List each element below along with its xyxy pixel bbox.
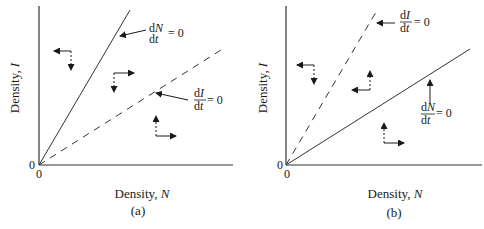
vector-arrow-left-down-icon <box>297 65 314 84</box>
panel-b: dI dt = 0 dN dt = 0 0 0 Density, N Densi… <box>255 6 482 220</box>
svg-text:= 0: = 0 <box>207 93 223 107</box>
y-axis-label: Density, I <box>7 62 22 113</box>
origin-x-tick: 0 <box>36 167 42 181</box>
pointer-arrow-icon <box>156 93 188 100</box>
label-dN-dt-zero: dN dt = 0 <box>149 21 184 46</box>
svg-text:dt: dt <box>421 113 431 127</box>
panel-caption: (b) <box>386 205 401 220</box>
label-dI-dt-zero: dI dt = 0 <box>400 8 430 35</box>
svg-text:= 0: = 0 <box>414 15 430 29</box>
vector-arrow-right-up-icon <box>384 123 404 143</box>
svg-text:= 0: = 0 <box>168 26 184 40</box>
svg-text:dI: dI <box>194 86 205 100</box>
svg-text:= 0: = 0 <box>436 106 452 120</box>
vector-arrow-left-down-icon <box>54 51 71 70</box>
isocline-figure: dN dt = 0 dI dt = 0 0 0 Density, N Densi… <box>0 0 484 229</box>
svg-text:dt: dt <box>400 21 410 35</box>
svg-text:dI: dI <box>400 8 411 22</box>
panel-a: dN dt = 0 dI dt = 0 0 0 Density, N Densi… <box>7 6 233 218</box>
svg-text:dt: dt <box>149 32 159 46</box>
svg-text:dN: dN <box>421 100 436 114</box>
label-dI-dt-zero: dI dt = 0 <box>194 86 223 113</box>
vector-arrow-right-down-icon <box>114 73 134 92</box>
origin-x-tick: 0 <box>284 167 290 181</box>
x-axis-label: Density, N <box>115 186 171 201</box>
svg-text:dt: dt <box>194 99 204 113</box>
pointer-arrow-icon <box>120 30 146 36</box>
isocline-dI-dt-dashed <box>286 12 376 165</box>
origin-y-tick: 0 <box>277 158 283 172</box>
panel-caption: (a) <box>131 203 145 218</box>
vector-arrow-right-up-icon <box>156 116 176 136</box>
label-dN-dt-zero: dN dt = 0 <box>421 100 452 127</box>
origin-y-tick: 0 <box>29 158 35 172</box>
vector-arrow-left-up-icon <box>352 71 370 90</box>
x-axis-label: Density, N <box>368 186 424 201</box>
isocline-dN-dt-solid <box>39 10 130 165</box>
y-axis-label: Density, I <box>255 62 270 113</box>
